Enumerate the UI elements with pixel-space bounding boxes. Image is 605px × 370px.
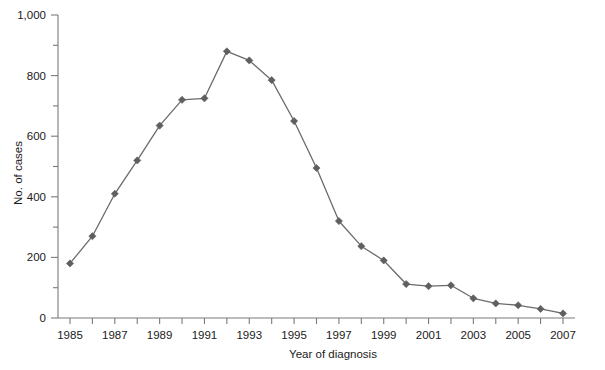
data-point-marker [425,283,432,290]
data-point-marker [201,95,208,102]
x-axis-tick-labels: 1985198719891991199319951997199920012003… [57,329,576,341]
x-tick-label: 2001 [416,329,442,341]
data-series-no-of-cases [66,48,566,317]
data-point-marker [111,190,118,197]
x-tick-label: 2003 [461,329,487,341]
x-tick-label: 2005 [505,329,531,341]
chart-container: 02004006008001,000 198519871989199119931… [0,0,605,370]
data-point-marker [223,48,230,55]
x-tick-label: 1989 [147,329,173,341]
series-line-path [70,51,563,313]
data-point-marker [492,300,499,307]
series-markers [66,48,566,317]
x-tick-label: 1997 [326,329,352,341]
data-point-marker [515,302,522,309]
y-tick-label: 1,000 [17,9,46,21]
y-tick-label: 0 [40,312,46,324]
x-tick-label: 1993 [236,329,262,341]
x-axis: 1985198719891991199319951997199920012003… [57,318,576,341]
y-tick-label: 600 [27,130,46,142]
y-tick-label: 200 [27,251,46,263]
x-tick-label: 1985 [57,329,83,341]
data-point-marker [470,295,477,302]
y-axis-title: No. of cases [12,141,24,205]
x-tick-label: 2007 [550,329,576,341]
x-axis-ticks [70,318,563,324]
x-tick-label: 1999 [371,329,397,341]
line-chart: 02004006008001,000 198519871989199119931… [0,0,605,370]
data-point-marker [313,164,320,171]
data-point-marker [447,282,454,289]
x-tick-label: 1991 [192,329,218,341]
y-tick-label: 400 [27,191,46,203]
x-axis-title: Year of diagnosis [289,348,377,360]
data-point-marker [559,310,566,317]
data-point-marker [134,157,141,164]
y-axis-minor-ticks [53,45,58,287]
x-tick-label: 1995 [281,329,307,341]
data-point-marker [537,305,544,312]
x-tick-label: 1987 [102,329,128,341]
y-tick-label: 800 [27,70,46,82]
data-point-marker [290,117,297,124]
